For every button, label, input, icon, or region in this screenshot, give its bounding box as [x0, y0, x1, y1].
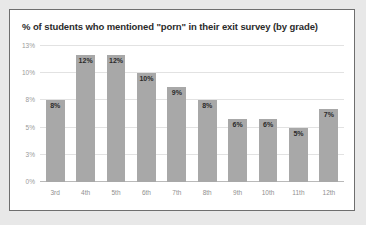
x-axis-tick-label: 9th	[222, 189, 252, 196]
bar-value-label: 10%	[137, 75, 156, 82]
bar[interactable]: 12%	[107, 55, 126, 182]
x-axis-tick-label: 8th	[192, 189, 222, 196]
bar[interactable]: 8%	[46, 100, 65, 182]
chart-card: % of students who mentioned "porn" in th…	[9, 9, 355, 211]
x-axis-tick-label: 7th	[162, 189, 192, 196]
bar-value-label: 7%	[319, 111, 338, 118]
bars-layer: 8%3rd12%4th12%5th10%6th9%7th8%8th6%9th6%…	[40, 46, 344, 182]
x-axis-tick-label: 11th	[283, 189, 313, 196]
y-axis-tick-label: 13%	[22, 42, 35, 49]
x-axis-tick-label: 5th	[101, 189, 131, 196]
bar-value-label: 5%	[289, 130, 308, 137]
bar[interactable]: 7%	[319, 109, 338, 182]
y-axis-tick-label: 8%	[26, 96, 35, 103]
bar-value-label: 8%	[198, 102, 217, 109]
bar-group: 8%3rd	[40, 46, 70, 182]
chart-title: % of students who mentioned "porn" in th…	[22, 21, 348, 32]
bar[interactable]: 6%	[228, 119, 247, 182]
x-axis-tick-label: 6th	[131, 189, 161, 196]
bar[interactable]: 10%	[137, 73, 156, 182]
bar-value-label: 12%	[76, 57, 95, 64]
bar-group: 10%6th	[131, 46, 161, 182]
bar-group: 5%11th	[283, 46, 313, 182]
x-axis-tick-label: 12th	[314, 189, 344, 196]
bar-value-label: 6%	[259, 121, 278, 128]
bar-group: 6%9th	[222, 46, 252, 182]
x-axis-tick-label: 4th	[70, 189, 100, 196]
bar[interactable]: 9%	[167, 87, 186, 182]
x-axis-tick-label: 3rd	[40, 189, 70, 196]
bar-group: 6%10th	[253, 46, 283, 182]
bar-group: 9%7th	[162, 46, 192, 182]
bar-group: 12%5th	[101, 46, 131, 182]
bar-value-label: 9%	[167, 89, 186, 96]
y-axis-tick-label: 3%	[26, 150, 35, 157]
bar-group: 7%12th	[314, 46, 344, 182]
bar[interactable]: 8%	[198, 100, 217, 182]
plot-area: 0%3%5%8%10%13% 8%3rd12%4th12%5th10%6th9%…	[40, 46, 344, 182]
y-axis-tick-label: 10%	[22, 69, 35, 76]
bar-value-label: 6%	[228, 121, 247, 128]
bar[interactable]: 12%	[76, 55, 95, 182]
bar-value-label: 8%	[46, 102, 65, 109]
bar[interactable]: 5%	[289, 128, 308, 182]
y-axis-tick-label: 0%	[26, 178, 35, 185]
bar-value-label: 12%	[107, 57, 126, 64]
y-axis-tick-label: 5%	[26, 123, 35, 130]
x-axis-tick-label: 10th	[253, 189, 283, 196]
bar-group: 8%8th	[192, 46, 222, 182]
bar-group: 12%4th	[70, 46, 100, 182]
bar[interactable]: 6%	[259, 119, 278, 182]
